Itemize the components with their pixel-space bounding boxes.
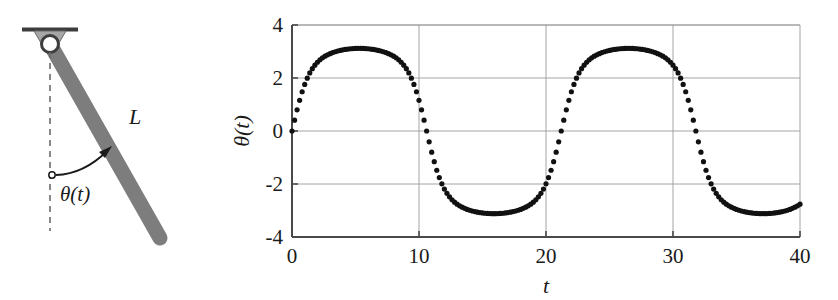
- rod-length-label: L: [129, 106, 141, 128]
- angle-label: θ(t): [60, 184, 90, 205]
- y-tick-label: 0: [273, 121, 284, 142]
- y-tick-label: 4: [273, 15, 284, 36]
- pendulum-diagram-svg: [0, 0, 220, 300]
- y-tick-label: -2: [266, 174, 284, 195]
- x-tick-label: 20: [536, 246, 557, 267]
- x-axis-title: t: [543, 275, 549, 297]
- pivot-hinge-icon: [42, 36, 59, 53]
- pendulum-diagram: L θ(t): [0, 0, 220, 300]
- figure-root: L θ(t) -4-2024 010203040 θ(t) t: [0, 0, 838, 300]
- x-tick-label: 10: [409, 246, 430, 267]
- y-tick-label: -4: [266, 227, 284, 248]
- pendulum-rod: [50, 44, 160, 238]
- grid-lines: [292, 25, 800, 237]
- theta-time-plot: -4-2024 010203040 θ(t) t: [220, 0, 838, 300]
- angle-origin-marker: [49, 172, 55, 178]
- y-axis-title: θ(t): [231, 115, 253, 147]
- angle-arc: [56, 151, 107, 175]
- x-tick-label: 40: [790, 246, 811, 267]
- x-tick-label: 30: [663, 246, 684, 267]
- theta-time-plot-svg: [220, 0, 838, 300]
- y-tick-label: 2: [273, 68, 284, 89]
- x-tick-label: 0: [287, 246, 298, 267]
